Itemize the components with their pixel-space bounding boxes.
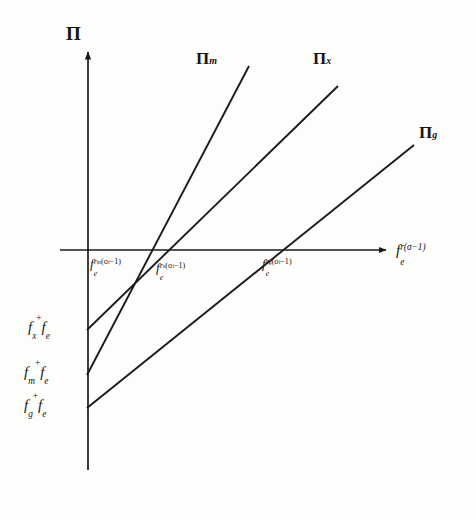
tick-label-fe-rx: ferx(σi−1) <box>156 261 160 274</box>
tick-label-fe-rg: ferg(σi−1) <box>262 257 266 270</box>
intercept-label-fx-fe: fx+fe <box>28 320 50 335</box>
curve-pi-x <box>87 86 338 330</box>
diagram-canvas <box>0 0 476 520</box>
intercept-label-fg-fe: fg+fe <box>24 398 46 413</box>
curve-pi-g <box>87 145 414 408</box>
x-axis-title: fer(σ−1) <box>396 243 400 258</box>
curve-label-pi-g: Πg <box>419 124 437 141</box>
tick-label-fe-rm: ferm(σi−1) <box>90 257 94 270</box>
curve-label-pi-m: Πm <box>196 50 217 67</box>
curve-pi-m <box>87 66 249 375</box>
intercept-label-fm-fe: fm+fe <box>24 365 48 380</box>
curve-label-pi-x: Πx <box>313 50 331 67</box>
profit-schedule-diagram: Π fer(σ−1) Πm Πx Πg ferm(σi−1) ferx(σi−1… <box>0 0 476 520</box>
y-axis-title: Π <box>66 24 81 43</box>
